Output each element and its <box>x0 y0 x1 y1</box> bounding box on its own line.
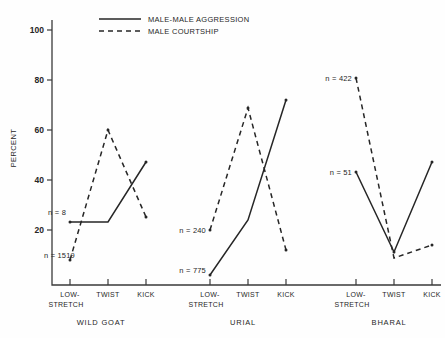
annotation-bharal-aggression-n: n = 51 <box>330 168 352 177</box>
xtick-label-urial-twist: TWIST <box>236 291 260 298</box>
datapoint-bharal-aggression-kick <box>431 161 434 164</box>
xtick-label-bharal-lowstretch-1: LOW- <box>346 291 366 298</box>
xtick-label-wildgoat-kick: KICK <box>137 291 155 298</box>
datapoint-bharal-courtship-kick <box>431 244 434 247</box>
series-bharal-courtship <box>356 78 432 258</box>
ytick-label-60: 60 <box>35 125 45 135</box>
y-axis-title: PERCENT <box>9 129 18 168</box>
xtick-label-wildgoat-lowstretch-2: STRETCH <box>48 301 83 308</box>
annotation-urial-aggression-n: n = 775 <box>179 266 206 275</box>
datapoint-bharal-aggression-lowstretch <box>355 171 358 174</box>
series-urial-aggression <box>210 100 286 275</box>
datapoint-wildgoat-courtship-kick <box>145 216 148 219</box>
group-bharal: LOW- STRETCH TWIST KICK BHARAL n = 422 n… <box>325 74 440 327</box>
group-urial: LOW- STRETCH TWIST KICK URIAL n = 240 n … <box>179 99 294 328</box>
xtick-label-bharal-lowstretch-2: STRETCH <box>334 301 369 308</box>
group-label-urial: URIAL <box>230 318 256 327</box>
ytick-label-100: 100 <box>30 25 44 35</box>
series-urial-courtship <box>210 108 286 250</box>
group-label-wild-goat: WILD GOAT <box>77 318 126 327</box>
datapoint-wildgoat-aggression-lowstretch <box>69 221 72 224</box>
chart-canvas: 100 80 60 40 20 PERCENT MALE-MALE AGGRES… <box>0 0 445 338</box>
axes-group: 100 80 60 40 20 PERCENT <box>9 20 441 285</box>
annotation-wildgoat-aggression-n: n = 8 <box>48 208 66 217</box>
xtick-label-urial-lowstretch-2: STRETCH <box>188 301 223 308</box>
ytick-label-40: 40 <box>35 175 45 185</box>
datapoint-urial-courtship-twist <box>247 107 250 110</box>
axis-lines <box>52 20 441 285</box>
datapoint-urial-aggression-lowstretch <box>209 274 212 277</box>
datapoint-bharal-courtship-lowstretch <box>355 77 358 80</box>
datapoint-urial-aggression-kick <box>285 99 288 102</box>
xtick-label-wildgoat-twist: TWIST <box>96 291 120 298</box>
legend: MALE-MALE AGGRESSION MALE COURTSHIP <box>99 15 249 36</box>
datapoint-wildgoat-courtship-twist <box>107 129 110 132</box>
datapoint-urial-courtship-kick <box>285 249 288 252</box>
series-bharal-aggression <box>356 162 432 252</box>
annotation-urial-courtship-n: n = 240 <box>179 226 206 235</box>
annotation-bharal-courtship-n: n = 422 <box>325 74 352 83</box>
ytick-label-80: 80 <box>35 75 45 85</box>
datapoint-wildgoat-aggression-kick <box>145 161 148 164</box>
chart-figure: 100 80 60 40 20 PERCENT MALE-MALE AGGRES… <box>0 0 445 338</box>
legend-label-courtship: MALE COURTSHIP <box>148 27 219 36</box>
xtick-label-bharal-kick: KICK <box>423 291 441 298</box>
xtick-label-bharal-twist: TWIST <box>382 291 406 298</box>
annotation-wildgoat-courtship-n: n = 1519 <box>44 251 75 260</box>
xtick-label-urial-kick: KICK <box>277 291 295 298</box>
series-wildgoat-courtship <box>70 130 146 260</box>
group-wild-goat: LOW- STRETCH TWIST KICK WILD GOAT n = 8 … <box>44 129 155 328</box>
xtick-label-wildgoat-lowstretch-1: LOW- <box>60 291 80 298</box>
xtick-label-urial-lowstretch-1: LOW- <box>200 291 220 298</box>
ytick-label-20: 20 <box>35 225 45 235</box>
group-label-bharal: BHARAL <box>372 318 407 327</box>
legend-label-aggression: MALE-MALE AGGRESSION <box>148 15 249 24</box>
datapoint-bharal-aggression-twist <box>393 251 396 254</box>
datapoint-urial-courtship-lowstretch <box>209 229 212 232</box>
